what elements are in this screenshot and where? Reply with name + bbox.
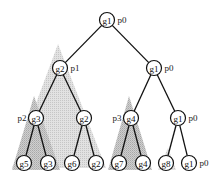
node-label: g8 <box>162 159 172 169</box>
node-label: g2 <box>92 159 101 169</box>
tree-node: g7 <box>112 156 127 171</box>
tree-edge <box>65 25 102 62</box>
process-tree-diagram: g1p0g2p1g1p0g3p2g2g4p3g1p0g5g3g6g2g7g4g8… <box>0 0 221 182</box>
node-label: g4 <box>139 159 149 169</box>
tree-node: g1p0 <box>147 61 175 76</box>
tree-node: g8 <box>159 156 174 171</box>
node-label: g7 <box>115 159 125 169</box>
node-label: g3 <box>44 159 54 169</box>
tree-node: g2 <box>89 156 104 171</box>
processor-label: p0 <box>118 15 128 25</box>
processor-label: p0 <box>189 113 199 123</box>
node-label: g1 <box>150 64 159 74</box>
tree-edge <box>134 75 151 111</box>
node-label: g1 <box>174 114 183 124</box>
tree-edge <box>112 25 149 62</box>
tree-node: g1p0 <box>100 13 128 28</box>
tree-node: g4 <box>136 156 151 171</box>
processor-label: p0 <box>200 158 210 168</box>
processor-label: p0 <box>165 63 175 73</box>
node-label: g3 <box>32 114 42 124</box>
tree-edge <box>180 125 187 155</box>
tree-edge <box>157 75 175 111</box>
tree-node: g3p2 <box>18 111 44 126</box>
tree-node: g4p3 <box>113 111 139 126</box>
processor-label: p2 <box>18 113 27 123</box>
tree-node: g2p1 <box>53 61 80 76</box>
tree-node: g2 <box>77 111 92 126</box>
node-label: g1 <box>185 159 194 169</box>
tree-node: g6 <box>65 156 80 171</box>
tree-node: g3 <box>41 156 56 171</box>
processor-label: p3 <box>113 113 123 123</box>
node-label: g2 <box>56 64 65 74</box>
tree-node: g1p0 <box>182 156 210 171</box>
tree-node: g1p0 <box>171 111 199 126</box>
tree-node: g5 <box>17 156 32 171</box>
tree-edge <box>168 125 176 156</box>
node-label: g4 <box>127 114 137 124</box>
node-label: g2 <box>80 114 89 124</box>
processor-label: p1 <box>71 63 80 73</box>
node-label: g1 <box>103 16 112 26</box>
node-label: g5 <box>20 159 30 169</box>
node-label: g6 <box>68 159 78 169</box>
